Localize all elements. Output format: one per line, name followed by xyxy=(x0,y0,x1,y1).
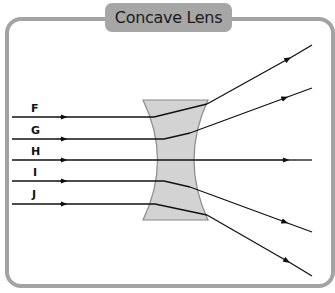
ray-label-j: J xyxy=(31,188,36,201)
ray-label-f: F xyxy=(31,102,39,115)
ray-label-i: I xyxy=(33,166,37,179)
ray-label-h: H xyxy=(31,145,40,158)
ray-label-g: G xyxy=(31,124,40,137)
